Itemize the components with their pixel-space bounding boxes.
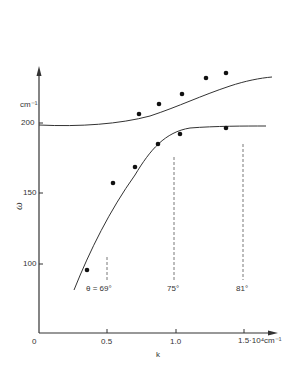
- x-axis-label: k: [156, 350, 160, 359]
- y-tick-200: 200: [21, 118, 34, 127]
- x-tick-10: 1.0: [170, 337, 181, 346]
- chart-plot: [0, 0, 293, 370]
- y-axis-arrow-icon: [37, 66, 42, 76]
- lower-branch-curve: [74, 126, 266, 290]
- y-tick-150: 150: [23, 188, 36, 197]
- origin-label: 0: [32, 337, 36, 346]
- theta-75-label: 75°: [167, 284, 179, 293]
- angle-markers: [107, 144, 243, 282]
- y-tick-100: 100: [23, 259, 36, 268]
- x-axis-arrow-icon: [268, 331, 278, 336]
- theta-81-label: 81°: [236, 284, 248, 293]
- x-tick-05: 0.5: [101, 337, 112, 346]
- axis-ticks: [39, 123, 244, 333]
- theta-69-label: θ = 69°: [86, 284, 112, 293]
- x-tick-15: 1.5·10⁴cm⁻¹: [238, 336, 281, 345]
- lower-branch-points: [85, 126, 229, 273]
- upper-branch-points: [137, 71, 229, 117]
- upper-branch-curve: [39, 77, 272, 126]
- y-unit-label: cm⁻¹: [20, 100, 37, 109]
- y-axis-label: ω: [12, 202, 24, 210]
